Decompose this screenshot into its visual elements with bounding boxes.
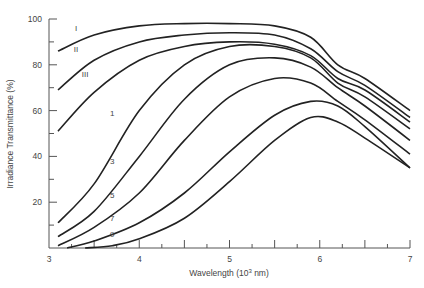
x-tick-label: 3 [47, 254, 52, 264]
y-tick-label: 40 [33, 151, 43, 161]
y-tick-label: 100 [28, 14, 42, 24]
curve-label: II [74, 45, 78, 54]
x-tick-label: 7 [408, 254, 413, 264]
y-axis-label: Irradiance Transmittance (%) [5, 79, 15, 188]
curve-label: 7 [110, 214, 115, 223]
curve-I [58, 23, 410, 110]
curve-label: 5 [110, 191, 115, 200]
curve-label: III [82, 70, 89, 79]
x-tick-label: 4 [137, 254, 142, 264]
curve-label: I [75, 24, 77, 33]
curve-label: 3 [110, 157, 115, 166]
y-tick-label: 80 [33, 60, 43, 70]
x-axis-label: Wavelength (103 nm) [189, 268, 269, 278]
chart-canvas: 2040608010034567 IIIIII13579 Wavelength … [0, 0, 424, 288]
y-tick-label: 60 [33, 106, 43, 116]
curve-label: 1 [110, 109, 115, 118]
transmittance-chart: 2040608010034567 IIIIII13579 Wavelength … [0, 0, 424, 288]
x-tick-label: 6 [317, 254, 322, 264]
axes: 2040608010034567 [28, 14, 413, 264]
y-tick-label: 20 [33, 197, 43, 207]
x-tick-label: 5 [227, 254, 232, 264]
curve-label: 9 [110, 230, 115, 239]
curve-labels: IIIIII13579 [74, 24, 115, 239]
